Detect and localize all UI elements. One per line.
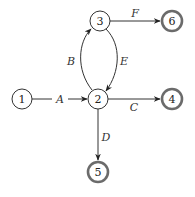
node-label-4: 4 — [169, 93, 176, 106]
node-5: 5 — [88, 162, 108, 182]
node-1: 1 — [12, 89, 32, 109]
edge-b-arrow — [81, 29, 92, 90]
node-4: 4 — [162, 89, 182, 109]
node-3: 3 — [90, 11, 110, 31]
edge-label-f: F — [130, 7, 139, 20]
node-2: 2 — [88, 89, 108, 109]
edge-e: E — [106, 29, 128, 91]
edge-c: C — [108, 99, 160, 114]
node-label-5: 5 — [95, 166, 102, 179]
edge-b: B — [66, 29, 92, 90]
edge-label-e: E — [119, 55, 128, 68]
edge-f: F — [110, 7, 160, 22]
edge-label-a: A — [55, 93, 64, 106]
edge-e-arrow — [106, 29, 117, 91]
edge-label-d: D — [101, 131, 111, 144]
edge-label-b: B — [66, 55, 75, 68]
node-label-2: 2 — [95, 93, 102, 106]
edge-d: D — [98, 109, 111, 160]
node-label-6: 6 — [169, 15, 176, 28]
edge-a: A — [32, 93, 87, 106]
state-diagram: A B E F C D 1 2 3 4 5 — [0, 0, 195, 197]
edge-label-c: C — [130, 101, 139, 114]
node-label-1: 1 — [19, 93, 26, 106]
node-6: 6 — [162, 11, 182, 31]
node-label-3: 3 — [97, 15, 104, 28]
